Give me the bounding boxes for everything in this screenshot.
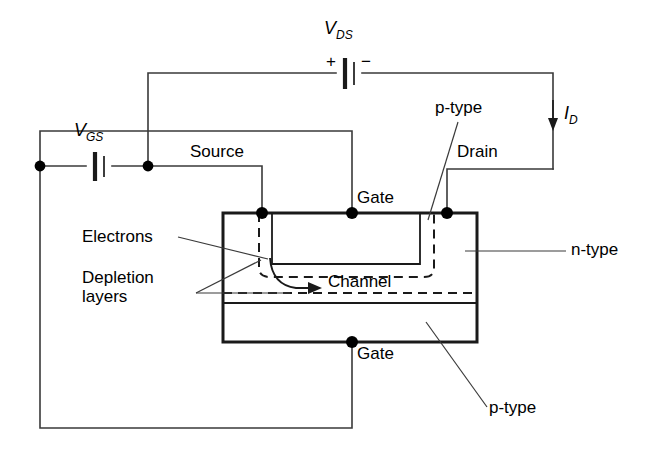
p-type-top-region-outline bbox=[272, 213, 420, 264]
id-current-arrow bbox=[548, 100, 558, 131]
wire-drain-branch bbox=[447, 169, 553, 213]
electrons-annotation-label: Electrons bbox=[82, 227, 153, 246]
vds-plus-sign: + bbox=[326, 52, 336, 72]
node-vgs-right bbox=[143, 161, 154, 172]
id-current-label: ID bbox=[564, 103, 578, 127]
node-source-terminal bbox=[256, 207, 268, 219]
vds-source-label: VDS bbox=[324, 18, 353, 42]
drain-terminal-label: Drain bbox=[457, 142, 498, 161]
vds-battery-symbol bbox=[345, 58, 354, 89]
p-type-top-region-label: p-type bbox=[435, 98, 482, 117]
p-type-bottom-region-label: p-type bbox=[489, 398, 536, 417]
vds-minus-sign: − bbox=[361, 52, 371, 72]
vgs-battery-symbol bbox=[95, 152, 104, 181]
gate-bottom-terminal-label: Gate bbox=[357, 344, 394, 363]
gate-top-terminal-label: Gate bbox=[357, 188, 394, 207]
leader-p-type-top bbox=[428, 122, 458, 220]
n-type-region-label: n-type bbox=[571, 240, 618, 259]
node-gate-top-terminal bbox=[346, 207, 358, 219]
depletion-layer-top-dashed bbox=[259, 213, 434, 277]
vgs-source-label: VGS bbox=[74, 120, 103, 144]
wire-source-branch bbox=[148, 166, 262, 213]
source-terminal-label: Source bbox=[190, 142, 244, 161]
depletion-label-line-1: Depletion bbox=[82, 268, 154, 287]
jfet-circuit-figure: VDS + − VGS ID Source Drain Gate Gate p-… bbox=[0, 0, 647, 453]
depletion-layers-annotation-label: Depletion layers bbox=[82, 268, 154, 306]
depletion-label-line-2: layers bbox=[82, 287, 154, 306]
channel-region-label: Channel bbox=[328, 272, 391, 291]
node-vgs-left bbox=[35, 161, 46, 172]
node-drain-terminal bbox=[441, 207, 453, 219]
leader-depletion-top bbox=[196, 260, 261, 293]
